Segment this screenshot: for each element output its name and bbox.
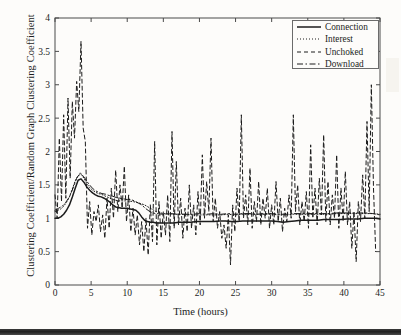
legend-label: Interest [325,34,353,44]
legend-item-connection: Connection [293,21,378,33]
y-tick-label: 0 [45,280,50,290]
x-tick-label: 35 [303,288,313,298]
scan-edge-band [0,329,401,335]
series-unchoked [55,41,376,265]
y-axis-label: Clustering Coefficient/Random Graph Clus… [25,12,36,280]
legend-item-unchoked: Unchoked [293,46,378,58]
legend-label: Unchoked [325,47,363,57]
scan-artifact [386,58,399,92]
y-tick-label: 1.5 [38,180,50,190]
y-tick-label: 2 [45,147,50,157]
legend-swatch-dashed [296,47,322,57]
legend-label: Connection [325,22,368,32]
x-axis-label: Time (hours) [0,306,401,317]
figure-container: 05101520253035404500.511.522.533.54 Clus… [0,0,401,335]
x-tick-label: 25 [231,288,241,298]
y-tick-label: 4 [45,13,50,23]
chart-legend: ConnectionInterestUnchokedDownload [292,20,379,69]
legend-label: Download [325,59,364,69]
x-tick-label: 0 [53,288,58,298]
x-tick-label: 45 [375,288,385,298]
x-tick-label: 15 [159,288,169,298]
y-tick-label: 0.5 [38,247,50,257]
legend-swatch-dotted [296,34,322,44]
x-tick-label: 20 [195,288,205,298]
y-tick-label: 3 [45,80,50,90]
x-tick-label: 30 [267,288,277,298]
legend-item-interest: Interest [293,33,378,45]
y-tick-label: 1 [45,214,50,224]
legend-swatch-solid [296,22,322,32]
legend-item-download: Download [293,58,378,70]
legend-swatch-dashdot [296,59,322,69]
x-tick-label: 40 [339,288,349,298]
x-tick-label: 5 [89,288,94,298]
y-tick-label: 2.5 [38,114,50,124]
x-tick-label: 10 [122,288,132,298]
y-tick-label: 3.5 [38,47,50,57]
